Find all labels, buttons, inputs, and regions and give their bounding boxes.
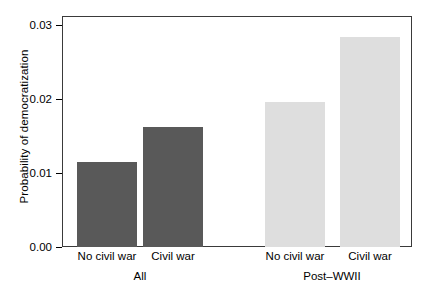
x-group-label-all: All — [80, 270, 200, 283]
bar-postwwii-no-civil-war — [265, 102, 325, 247]
y-tick-label-3: 0.03 — [14, 20, 52, 32]
bar-chart: Probability of democratization 0.00 0.01… — [0, 0, 427, 295]
x-tick-label-1: Civil war — [113, 250, 233, 263]
x-group-label-postwwii: Post–WWII — [272, 270, 392, 283]
y-tick-label-1: 0.01 — [14, 168, 52, 180]
x-tick-label-3: Civil war — [310, 250, 427, 263]
bar-all-no-civil-war — [77, 162, 137, 247]
bar-all-civil-war — [143, 127, 203, 247]
plot-area — [62, 16, 412, 247]
bar-postwwii-civil-war — [340, 37, 400, 247]
y-tick-mark-0 — [56, 247, 62, 248]
y-tick-label-2: 0.02 — [14, 94, 52, 106]
